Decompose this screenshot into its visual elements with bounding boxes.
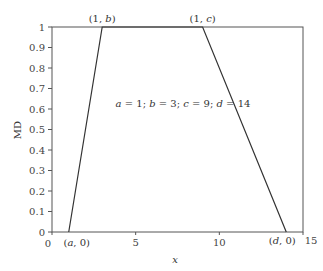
trapezoid-membership-chart: 00.10.20.30.40.50.60.70.80.91051015xMD(1… xyxy=(0,0,323,271)
trapezoid-line xyxy=(69,27,287,232)
annotation-a-0: (a, 0) xyxy=(63,237,90,248)
y-tick-label: 1 xyxy=(39,22,45,33)
parameters-annotation: a = 1; b = 3; c = 9; d = 14 xyxy=(116,98,251,109)
y-tick-label: 0.6 xyxy=(29,104,45,115)
x-axis-label: x xyxy=(172,254,178,265)
annotation-d-0: (d, 0) xyxy=(269,235,296,246)
y-tick-label: 0.7 xyxy=(29,83,45,94)
annotation-1-c: (1, c) xyxy=(190,13,216,24)
y-tick-label: 0.4 xyxy=(29,145,45,156)
annotation-1-b: (1, b) xyxy=(89,13,116,24)
x-tick-label: 10 xyxy=(213,237,226,248)
x-tick-label: 0 xyxy=(45,238,51,249)
y-tick-label: 0.1 xyxy=(29,206,45,217)
x-tick-label: 5 xyxy=(132,237,138,248)
x-tick-label: 15 xyxy=(305,235,318,246)
y-tick-label: 0.8 xyxy=(29,63,45,74)
plot-frame xyxy=(52,27,303,232)
y-tick-label: 0.3 xyxy=(29,165,45,176)
y-tick-label: 0 xyxy=(39,227,45,238)
y-tick-label: 0.9 xyxy=(29,42,45,53)
y-axis-label: MD xyxy=(12,121,23,139)
y-tick-label: 0.2 xyxy=(29,186,45,197)
y-tick-label: 0.5 xyxy=(29,124,45,135)
